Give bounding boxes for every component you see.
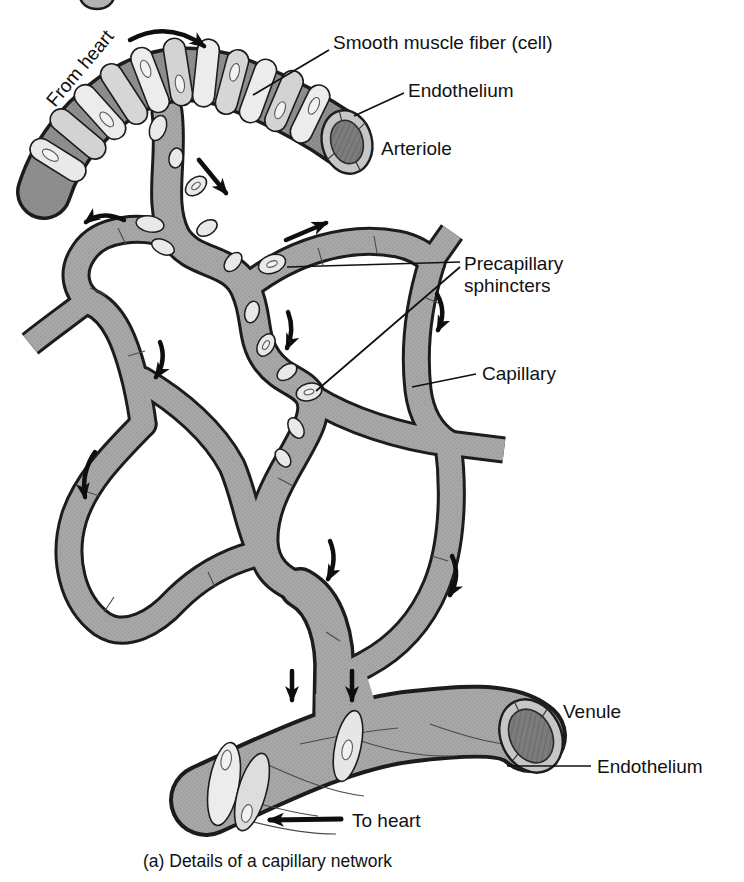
figure-capillary-network: From heart Smooth muscle fiber (cell) En… xyxy=(0,0,744,882)
flow-arrow-to-heart xyxy=(270,819,341,820)
label-smooth-muscle: Smooth muscle fiber (cell) xyxy=(333,32,553,53)
flow-arrow xyxy=(328,541,334,579)
figure-caption: (a) Details of a capillary network xyxy=(143,851,392,871)
diagram-canvas: From heart Smooth muscle fiber (cell) En… xyxy=(0,0,744,882)
label-capillary: Capillary xyxy=(482,363,556,384)
label-precapillary-line2: sphincters xyxy=(464,275,551,296)
label-endothelium-top: Endothelium xyxy=(408,80,514,101)
leader-line-endothelium-top xyxy=(354,93,404,116)
label-venule: Venule xyxy=(563,701,621,722)
label-precapillary-line1: Precapillary xyxy=(464,253,564,274)
capillary xyxy=(416,262,448,443)
label-arteriole: Arteriole xyxy=(381,138,452,159)
flow-arrow xyxy=(156,342,163,377)
muscle-cell-blob xyxy=(182,172,211,200)
flow-arrow xyxy=(437,294,442,330)
capillary-network xyxy=(30,112,504,730)
label-endothelium-bottom: Endothelium xyxy=(597,756,703,777)
cropped-vessel-artifact xyxy=(80,0,114,9)
label-to-heart: To heart xyxy=(352,810,421,831)
flow-arrow xyxy=(287,312,291,348)
muscle-cell-blob xyxy=(194,216,220,239)
